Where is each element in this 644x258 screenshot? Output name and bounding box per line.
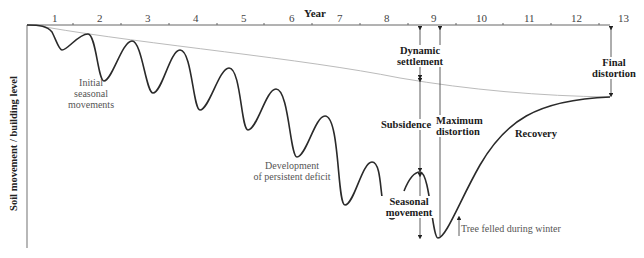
x-axis-title: Year <box>304 8 326 19</box>
label-initial-seasonal: Initialseasonalmovements <box>56 77 126 110</box>
x-tick-8: 8 <box>384 12 390 24</box>
label-recovery: Recovery <box>506 128 566 139</box>
label-persistent-deficit: Developmentof persistent deficit <box>252 160 332 182</box>
label-tree-felled: Tree felled during winter <box>461 223 581 234</box>
x-tick-6: 6 <box>289 12 295 24</box>
x-tick-7: 7 <box>337 12 343 24</box>
x-tick-2: 2 <box>97 12 103 24</box>
x-tick-3: 3 <box>145 12 151 24</box>
x-tick-4: 4 <box>193 12 199 24</box>
y-axis-title: Soil movement / building level <box>8 69 19 219</box>
label-final-distortion: Finaldistortion <box>586 57 642 79</box>
x-tick-12: 12 <box>571 12 582 24</box>
x-tick-13: 13 <box>618 12 629 24</box>
x-tick-11: 11 <box>524 12 535 24</box>
x-tick-9: 9 <box>431 12 437 24</box>
x-tick-10: 10 <box>476 12 487 24</box>
x-tick-1: 1 <box>52 12 58 24</box>
label-seasonal-movement: Seasonalmovement <box>380 196 438 218</box>
label-dynamic-settlement: Dynamicsettlement <box>383 45 457 67</box>
label-subsidence: Subsidence <box>376 119 436 130</box>
x-tick-5: 5 <box>241 12 247 24</box>
deficit-trend-line <box>45 27 610 97</box>
label-maximum-distortion: Maximumdistortion <box>432 115 496 137</box>
